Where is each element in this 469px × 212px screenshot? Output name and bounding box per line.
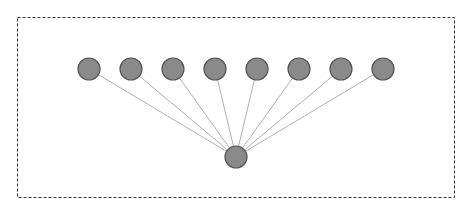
leaf-node-n7 bbox=[330, 58, 352, 80]
edge-n4 bbox=[215, 69, 236, 157]
edge-n7 bbox=[236, 69, 341, 157]
leaf-node-n8 bbox=[372, 58, 394, 80]
nodes bbox=[78, 58, 394, 168]
edge-n8 bbox=[236, 69, 383, 157]
leaf-node-n6 bbox=[288, 58, 310, 80]
edge-n6 bbox=[236, 69, 299, 157]
leaf-node-n1 bbox=[78, 58, 100, 80]
diagram-canvas bbox=[0, 0, 469, 212]
edges bbox=[89, 69, 383, 157]
leaf-node-n3 bbox=[162, 58, 184, 80]
edge-n5 bbox=[236, 69, 257, 157]
leaf-node-n5 bbox=[246, 58, 268, 80]
leaf-node-n4 bbox=[204, 58, 226, 80]
edge-n1 bbox=[89, 69, 236, 157]
dashed-frame bbox=[18, 18, 455, 198]
edge-n2 bbox=[131, 69, 236, 157]
leaf-node-n2 bbox=[120, 58, 142, 80]
edge-n3 bbox=[173, 69, 236, 157]
hub-node bbox=[225, 146, 247, 168]
